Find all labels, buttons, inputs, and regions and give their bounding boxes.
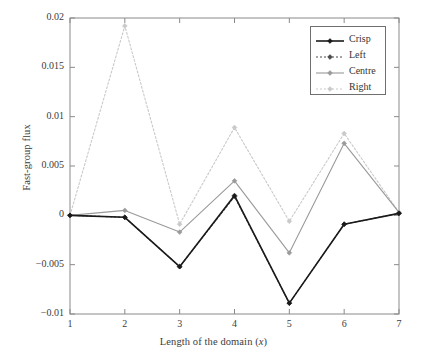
data-point-marker <box>232 125 237 130</box>
legend-item-right[interactable]: Right <box>315 78 385 95</box>
chart-figure: Fast-group flux Length of the domain (x)… <box>0 0 427 364</box>
data-point-marker <box>68 213 73 218</box>
legend-item-left[interactable]: Left <box>315 46 385 63</box>
legend-line-sample-icon <box>315 49 345 61</box>
x-tick-label: 6 <box>329 318 359 329</box>
data-point-marker <box>122 23 127 28</box>
x-tick-label: 4 <box>220 318 250 329</box>
y-tick-label: 0.005 <box>12 159 64 170</box>
y-tick-label: 0.015 <box>12 60 64 71</box>
y-tick-label: −0.005 <box>12 258 64 269</box>
x-tick-label: 7 <box>384 318 414 329</box>
legend-label: Centre <box>345 66 376 76</box>
series-line-crisp <box>70 196 399 304</box>
x-axis-title-close: ) <box>264 336 268 347</box>
chart-legend: CrispLeftCentreRight <box>310 26 386 95</box>
y-tick-label: 0.01 <box>12 110 64 121</box>
x-tick-label: 3 <box>165 318 195 329</box>
legend-label: Right <box>345 82 371 92</box>
x-tick-label: 1 <box>55 318 85 329</box>
legend-label: Crisp <box>345 34 371 44</box>
series-crisp <box>68 193 402 305</box>
legend-line-sample-icon <box>315 65 345 77</box>
y-tick-label: −0.01 <box>12 307 64 318</box>
x-tick-label: 5 <box>274 318 304 329</box>
legend-line-sample-icon <box>315 33 345 45</box>
data-point-marker <box>122 208 127 213</box>
legend-marker <box>328 86 333 91</box>
legend-label: Left <box>345 50 366 60</box>
x-tick-label: 2 <box>110 318 140 329</box>
y-axis-title-text: Fast-group flux <box>21 124 32 191</box>
y-tick-label: 0.02 <box>12 11 64 22</box>
data-point-marker <box>177 222 182 227</box>
legend-marker <box>328 38 333 43</box>
x-axis-title-main: Length of the domain ( <box>160 336 259 347</box>
y-tick-label: 0 <box>12 208 64 219</box>
series-line-left <box>70 197 399 304</box>
legend-item-centre[interactable]: Centre <box>315 62 385 79</box>
legend-line-sample-icon <box>315 81 345 93</box>
legend-item-crisp[interactable]: Crisp <box>315 30 385 47</box>
x-axis-title: Length of the domain (x) <box>0 336 427 347</box>
legend-marker <box>328 70 333 75</box>
legend-marker <box>328 54 333 59</box>
